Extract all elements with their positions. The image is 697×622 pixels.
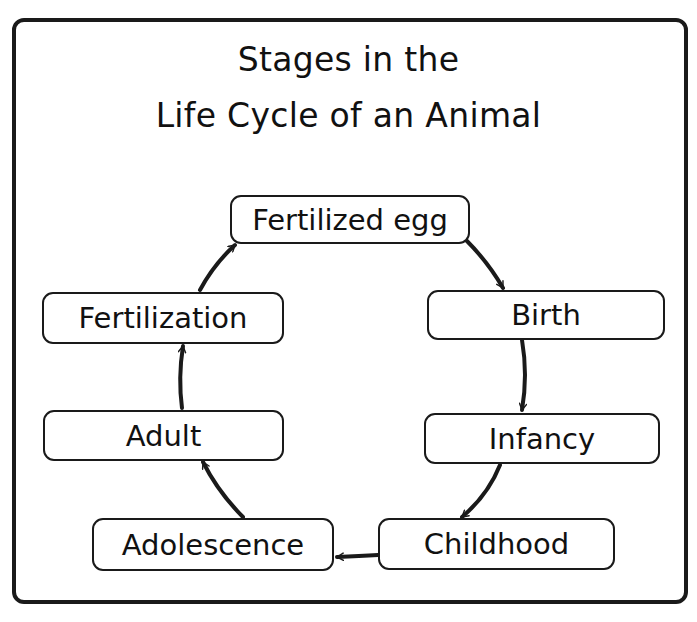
arrow-egg-to-birth <box>466 240 503 288</box>
node-infancy: Infancy <box>424 413 660 464</box>
node-adolescence: Adolescence <box>92 518 334 571</box>
node-birth: Birth <box>427 290 665 340</box>
node-adult: Adult <box>43 410 284 461</box>
arrow-adolescence-to-adult <box>203 462 243 517</box>
arrow-birth-to-infancy <box>522 340 525 410</box>
node-fertilization: Fertilization <box>42 292 284 344</box>
node-childhood: Childhood <box>378 518 615 570</box>
arrow-fertilization-to-egg <box>200 245 235 290</box>
arrow-infancy-to-childhood <box>462 465 500 517</box>
arrow-childhood-to-adolescence <box>337 555 378 557</box>
node-fertilized-egg: Fertilized egg <box>230 195 470 244</box>
arrow-adult-to-fertilization <box>180 346 183 408</box>
